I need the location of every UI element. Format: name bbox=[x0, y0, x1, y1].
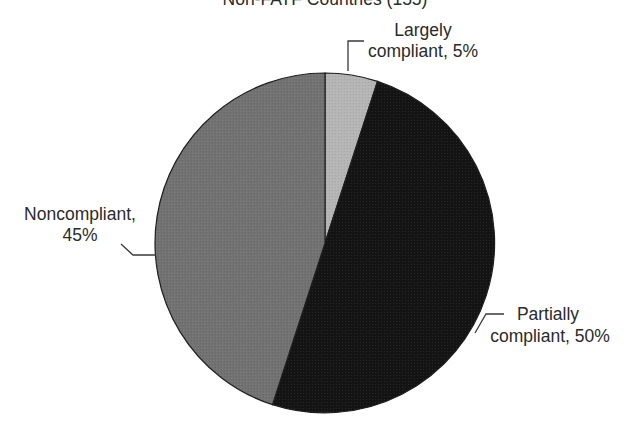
leader-line-noncompliant bbox=[121, 244, 156, 255]
pie-slices bbox=[155, 73, 495, 413]
leader-line-largely bbox=[348, 41, 364, 71]
label-largely-line2: compliant, 5% bbox=[368, 41, 478, 61]
label-noncompliant-line2: 45% bbox=[62, 225, 97, 245]
pie-chart: Non-FATF Countries (155) Largely complia… bbox=[0, 0, 632, 433]
label-partially-line1: Partially bbox=[517, 304, 579, 324]
chart-title: Non-FATF Countries (155) bbox=[223, 0, 428, 9]
label-largely-line1: Largely bbox=[394, 20, 452, 40]
label-noncompliant-line1: Noncompliant, bbox=[24, 204, 136, 224]
label-partially-line2: compliant, 50% bbox=[490, 326, 610, 346]
